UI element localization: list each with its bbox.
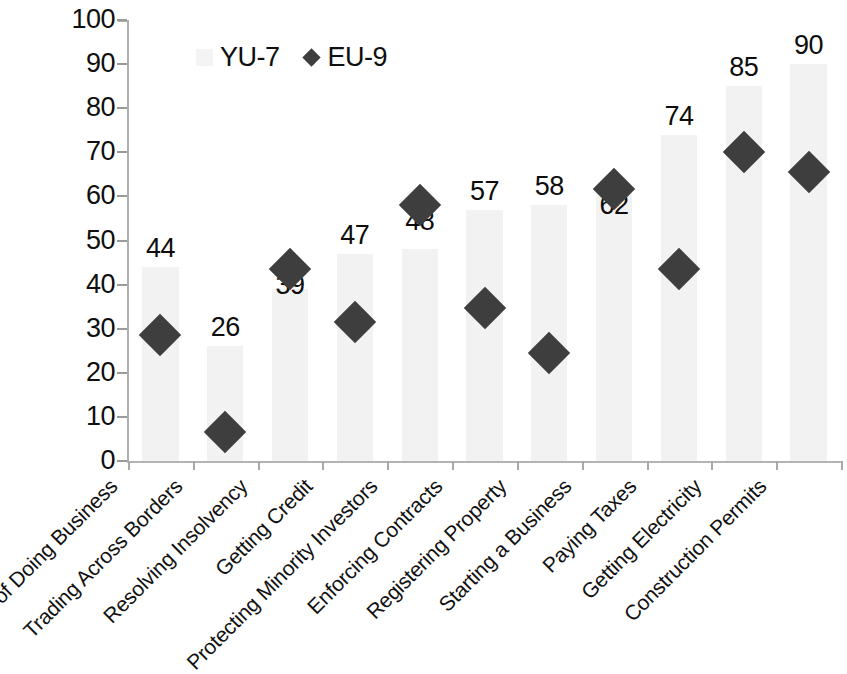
bar — [142, 267, 178, 461]
y-axis-tick — [117, 195, 127, 197]
legend-item-eu9: EU-9 — [302, 44, 388, 71]
bar — [402, 249, 438, 461]
bar — [790, 64, 826, 461]
y-axis-tick — [117, 19, 127, 21]
plot-area: 4426394748575862748590 — [128, 20, 841, 461]
y-axis-tick-label: 90 — [7, 50, 115, 77]
bar-value-label: 74 — [664, 103, 693, 130]
bar-value-label: 58 — [535, 173, 564, 200]
legend-label-eu9: EU-9 — [328, 44, 388, 71]
y-axis-tick — [117, 328, 127, 330]
bar — [466, 210, 502, 461]
y-axis-tick — [117, 416, 127, 418]
y-axis-tick-label: 40 — [7, 271, 115, 298]
y-axis-tick — [117, 151, 127, 153]
y-axis-tick-label: 30 — [7, 315, 115, 342]
bar-swatch-icon — [196, 49, 213, 66]
bar-value-label: 90 — [794, 32, 823, 59]
y-axis-tick-label: 70 — [7, 138, 115, 165]
bar-value-label: 44 — [146, 235, 175, 262]
bar — [596, 188, 632, 461]
y-axis-tick-label: 80 — [7, 94, 115, 121]
y-axis-tick — [117, 240, 127, 242]
y-axis-tick — [117, 284, 127, 286]
bar — [337, 254, 373, 461]
bar — [661, 135, 697, 461]
y-axis-tick-label: 50 — [7, 227, 115, 254]
x-axis-category-labels: Ease of Doing BusinessTrading Across Bor… — [0, 461, 847, 669]
y-axis-tick-label: 10 — [7, 403, 115, 430]
y-axis-tick-label: 100 — [7, 6, 115, 33]
y-axis-tick-label: 20 — [7, 359, 115, 386]
bar-value-label: 85 — [729, 54, 758, 81]
chart-legend: YU-7 EU-9 — [196, 44, 387, 71]
bar-value-label: 47 — [340, 222, 369, 249]
diamond-marker-icon — [302, 48, 320, 66]
y-axis-tick-label: 60 — [7, 182, 115, 209]
y-axis-tick — [117, 372, 127, 374]
bar — [272, 289, 308, 461]
bar-value-label: 57 — [470, 178, 499, 205]
x-axis-category-label: Getting Electricity — [577, 475, 705, 603]
bar-value-label: 26 — [211, 314, 240, 341]
y-axis-tick — [117, 107, 127, 109]
legend-item-yu7: YU-7 — [196, 44, 280, 71]
legend-label-yu7: YU-7 — [220, 44, 280, 71]
y-axis-tick — [117, 63, 127, 65]
